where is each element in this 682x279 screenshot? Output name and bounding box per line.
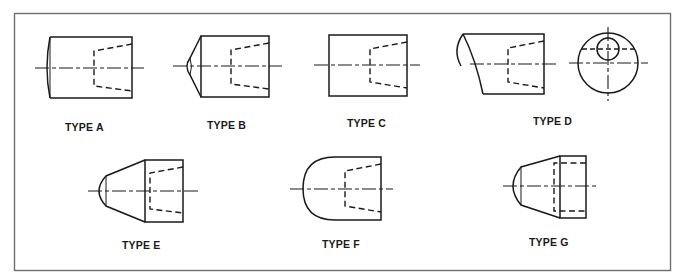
type-c-label: TYPE C (347, 117, 386, 129)
type-g-label: TYPE G (529, 236, 569, 248)
type-d-side-view (457, 34, 558, 94)
type-b-drawing (173, 36, 282, 97)
type-f-drawing (290, 157, 393, 220)
type-d-end-view (569, 27, 648, 101)
tip-types-diagram: TYPE A TYPE B TYPE C TYPE D (0, 0, 682, 279)
type-e-drawing (88, 160, 198, 222)
type-a-label: TYPE A (65, 121, 104, 133)
type-d-label: TYPE D (533, 115, 572, 127)
type-b-label: TYPE B (207, 119, 246, 131)
type-e-label: TYPE E (122, 239, 161, 251)
type-g-drawing (503, 156, 598, 218)
type-c-drawing (314, 35, 420, 96)
diagram-frame (15, 14, 671, 271)
type-f-label: TYPE F (322, 238, 360, 250)
type-a-drawing (35, 37, 144, 98)
